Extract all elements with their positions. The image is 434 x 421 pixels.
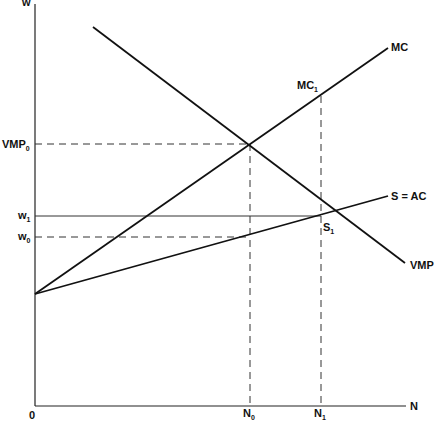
- mc1-sub: 1: [314, 86, 318, 93]
- s1-main: S: [323, 221, 330, 233]
- vmp-label: VMP: [410, 259, 434, 271]
- y-axis-label: w: [21, 0, 31, 8]
- mc-label: MC: [391, 41, 408, 53]
- n0-sub: 0: [251, 414, 255, 421]
- w1-label: w1: [17, 209, 31, 223]
- s1-sub: 1: [330, 228, 334, 235]
- vmp0-label: VMP0: [2, 138, 30, 152]
- w1-main: w: [17, 209, 27, 221]
- vmp0-sub: 0: [26, 145, 30, 152]
- s1-label: S1: [323, 221, 334, 235]
- origin-label: 0: [29, 409, 35, 421]
- mc1-main: MC: [297, 79, 314, 91]
- w0-sub: 0: [27, 237, 31, 244]
- labor-market-diagram: w N 0 MC MC1 VMP S = AC S1 VMP0 w1 w0 N0…: [0, 0, 434, 421]
- s-ac-label: S = AC: [391, 190, 426, 202]
- n1-label: N1: [314, 407, 326, 421]
- n1-sub: 1: [322, 414, 326, 421]
- w1-sub: 1: [27, 216, 31, 223]
- w0-main: w: [17, 230, 27, 242]
- mc1-label: MC1: [297, 79, 318, 93]
- x-axis-label: N: [410, 400, 418, 412]
- mc-curve: [35, 48, 388, 294]
- s-ac-curve: [35, 196, 388, 294]
- vmp0-main: VMP: [2, 138, 26, 150]
- n0-label: N0: [243, 407, 255, 421]
- vmp-curve: [93, 27, 405, 263]
- n0-main: N: [243, 407, 251, 419]
- n1-main: N: [314, 407, 322, 419]
- w0-label: w0: [17, 230, 31, 244]
